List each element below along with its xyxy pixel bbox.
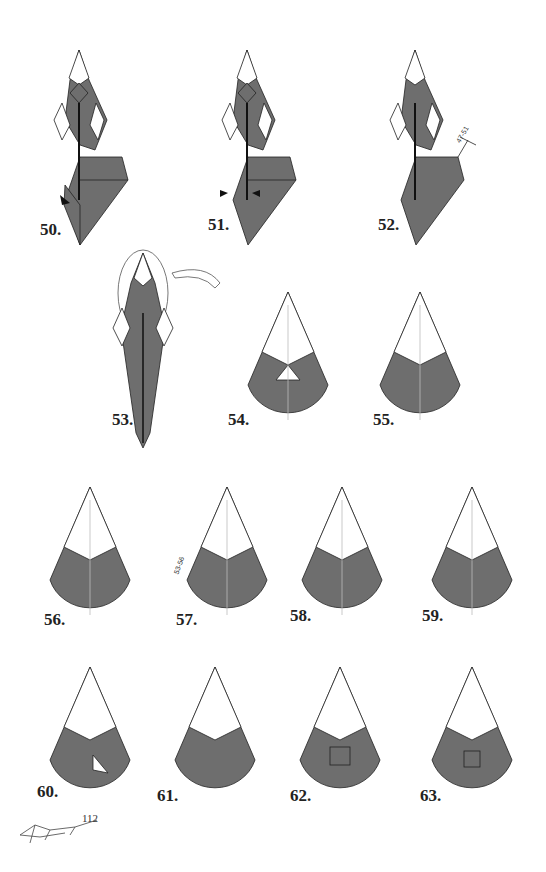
diagram-step-62: [298, 665, 398, 805]
step-label-55: 55.: [373, 410, 394, 430]
step-label-50: 50.: [40, 220, 61, 240]
step-label-62: 62.: [290, 786, 311, 806]
step-label-59: 59.: [422, 606, 443, 626]
step-label-63: 63.: [420, 786, 441, 806]
step-label-56: 56.: [44, 610, 65, 630]
step-label-58: 58.: [290, 606, 311, 626]
diagram-step-55: [378, 290, 478, 430]
diagram-step-63: [430, 665, 530, 805]
svg-text:53-56: 53-56: [173, 556, 186, 575]
step-label-51: 51.: [208, 215, 229, 235]
diagram-step-59: [430, 485, 530, 625]
diagram-step-60: [48, 665, 148, 805]
page-number: 112: [82, 812, 98, 824]
step-label-60: 60.: [37, 782, 58, 802]
step-label-53: 53.: [112, 410, 133, 430]
step-label-57: 57.: [176, 610, 197, 630]
step-label-61: 61.: [157, 786, 178, 806]
diagram-step-57: 53-56: [185, 485, 285, 625]
diagram-step-54: [246, 290, 346, 430]
diagram-step-56: [48, 485, 148, 625]
diagram-step-61: [173, 665, 273, 805]
diagram-step-58: [300, 485, 400, 625]
step-label-54: 54.: [228, 410, 249, 430]
step-label-52: 52.: [378, 215, 399, 235]
